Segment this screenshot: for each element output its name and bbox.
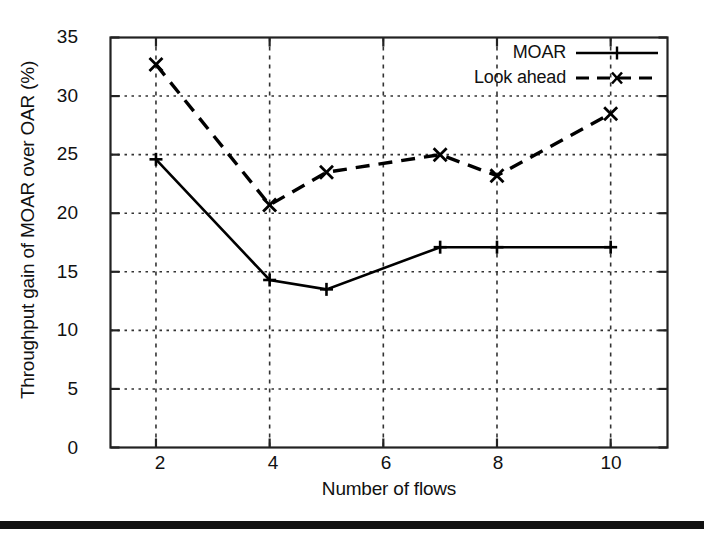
legend-sample-moar-solid-plus-icon	[574, 43, 660, 63]
plot-frame	[111, 38, 668, 448]
y-tick-label-0: 0	[32, 437, 78, 459]
marker-plus-icon	[434, 241, 447, 254]
marker-x-icon	[604, 107, 617, 120]
x-tick-label-2: 2	[140, 452, 180, 474]
marker-plus-icon	[604, 241, 617, 254]
x-tick-label-4: 4	[253, 452, 293, 474]
marker-plus-icon	[320, 283, 333, 296]
marker-x-icon	[320, 166, 333, 179]
axis-tick-marks	[111, 38, 668, 448]
x-tick-label-8: 8	[478, 452, 518, 474]
marker-x-icon	[149, 58, 162, 71]
y-tick-label-30: 30	[32, 85, 78, 107]
scan-edge-bar	[0, 521, 704, 529]
y-tick-label-20: 20	[32, 202, 78, 224]
marker-plus-icon	[490, 241, 503, 254]
legend-sample-look-ahead-dashed-x-icon	[574, 68, 660, 88]
chart-legend: MOAR Look ahead	[448, 40, 660, 90]
legend-entry-moar: MOAR	[448, 40, 660, 65]
y-tick-label-5: 5	[32, 378, 78, 400]
x-axis-title: Number of flows	[110, 478, 668, 500]
legend-label-moar: MOAR	[513, 42, 566, 63]
x-tick-label-6: 6	[366, 452, 406, 474]
y-tick-label-25: 25	[32, 143, 78, 165]
legend-entry-look-ahead: Look ahead	[448, 65, 660, 90]
legend-label-look-ahead: Look ahead	[474, 67, 566, 88]
series-line	[156, 159, 611, 289]
y-tick-label-35: 35	[32, 26, 78, 48]
grid-lines-horizontal	[111, 96, 668, 389]
y-tick-label-15: 15	[32, 261, 78, 283]
grid-lines-vertical	[156, 38, 611, 448]
chart-page: Throughput gain of MOAR over OAR (%) 35 …	[0, 0, 704, 535]
y-tick-label-10: 10	[32, 319, 78, 341]
x-tick-label-10: 10	[591, 452, 631, 474]
